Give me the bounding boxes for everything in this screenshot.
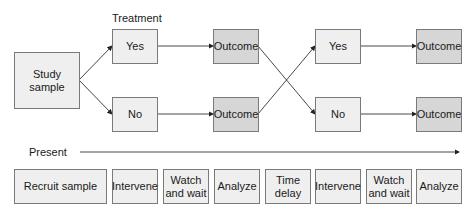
outcome-box: Outcome <box>213 97 259 132</box>
treatment-no-box: No <box>112 97 158 132</box>
outcome-box: Outcome <box>416 97 462 132</box>
timeline-step: Analyze <box>214 169 260 204</box>
timeline-step: Analyze <box>416 169 462 204</box>
treatment-yes-box: Yes <box>112 29 158 64</box>
crossover-no-box: No <box>315 97 361 132</box>
timeline-step: Watch and wait <box>366 169 412 204</box>
study-sample-box: Study sample <box>14 52 80 109</box>
timeline-step: Intervene <box>112 169 158 204</box>
timeline-step: Recruit sample <box>14 169 107 204</box>
present-label: Present <box>29 146 67 158</box>
crossover-yes-box: Yes <box>315 29 361 64</box>
timeline-step: Watch and wait <box>163 169 209 204</box>
timeline-step: Intervene <box>315 169 361 204</box>
timeline-step: Time delay <box>265 169 311 204</box>
treatment-label: Treatment <box>112 12 162 24</box>
outcome-box: Outcome <box>416 29 462 64</box>
outcome-box: Outcome <box>213 29 259 64</box>
